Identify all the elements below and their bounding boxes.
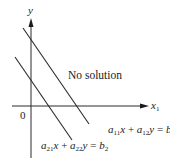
equation-2-label: a21x + a22y = b2 bbox=[41, 140, 108, 153]
line-equation-2 bbox=[15, 57, 72, 140]
y-axis-label: y bbox=[28, 5, 33, 16]
y-axis-arrow-icon bbox=[29, 18, 34, 27]
x-axis-arrow-icon bbox=[140, 104, 149, 109]
region-label: No solution bbox=[68, 70, 122, 82]
origin-label: 0 bbox=[20, 110, 26, 121]
x-axis-label: x1 bbox=[151, 100, 159, 113]
equation-1-label: a11x + a12y = b1 bbox=[108, 124, 170, 137]
